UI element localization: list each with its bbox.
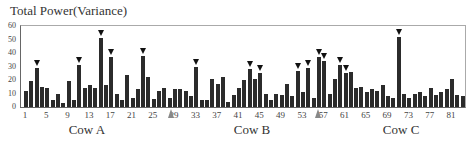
bar <box>338 65 342 107</box>
bar <box>205 100 209 107</box>
bar <box>67 81 71 107</box>
bar <box>397 37 401 107</box>
down-triangle-marker-icon <box>247 61 253 67</box>
bar <box>88 85 92 107</box>
y-tick-label: 30 <box>0 63 16 71</box>
bar <box>157 91 161 107</box>
bar <box>253 79 257 107</box>
bar <box>216 84 220 107</box>
bar <box>141 56 145 107</box>
bar <box>131 98 135 107</box>
y-tick-label: 50 <box>0 36 16 44</box>
bar <box>301 92 305 107</box>
y-tick-label: 60 <box>0 22 16 30</box>
down-triangle-marker-icon <box>257 65 263 71</box>
x-tick-label: 13 <box>84 110 93 120</box>
bar <box>136 89 140 107</box>
x-tick-label: 61 <box>340 110 349 120</box>
bar <box>344 73 348 107</box>
y-tick-label: 10 <box>0 90 16 98</box>
bar <box>242 80 246 107</box>
bar <box>365 92 369 107</box>
x-tick-label: 9 <box>65 110 70 120</box>
x-tick-label: 65 <box>361 110 370 120</box>
gray-up-triangle-marker-icon <box>168 109 174 118</box>
bar <box>349 72 353 107</box>
bar <box>370 89 374 107</box>
x-tick-label: 25 <box>148 110 157 120</box>
bar <box>109 57 113 107</box>
down-triangle-marker-icon <box>321 53 327 59</box>
x-tick-label: 33 <box>191 110 200 120</box>
bar <box>407 98 411 107</box>
bar <box>434 95 438 107</box>
down-triangle-marker-icon <box>108 49 114 55</box>
bar <box>439 92 443 107</box>
bar <box>24 91 28 107</box>
bar <box>77 65 81 107</box>
bar <box>61 103 65 107</box>
bar <box>125 75 129 107</box>
x-tick-label: 21 <box>127 110 136 120</box>
bar <box>232 95 236 107</box>
bar <box>194 67 198 108</box>
bar <box>354 88 358 107</box>
x-tick-label: 45 <box>255 110 264 120</box>
bar <box>306 68 310 107</box>
bar <box>184 91 188 107</box>
bar <box>280 95 284 107</box>
bar <box>93 88 97 107</box>
bar <box>248 69 252 107</box>
bar <box>258 73 262 107</box>
x-tick-label: 41 <box>234 110 243 120</box>
bar <box>200 100 204 107</box>
bar <box>312 98 316 107</box>
group-label: Cow B <box>234 122 270 138</box>
down-triangle-marker-icon <box>343 65 349 71</box>
x-tick-label: 1 <box>23 110 28 120</box>
bar <box>269 100 273 107</box>
bar <box>333 79 337 107</box>
x-tick-label: 81 <box>447 110 456 120</box>
bar <box>274 94 278 108</box>
bar <box>375 91 379 107</box>
bar <box>296 71 300 107</box>
bar <box>29 81 33 107</box>
bar <box>115 94 119 108</box>
bar <box>83 88 87 107</box>
x-tick-label: 17 <box>106 110 115 120</box>
down-triangle-marker-icon <box>98 30 104 36</box>
group-label: Cow C <box>383 122 419 138</box>
bar <box>429 88 433 107</box>
down-triangle-marker-icon <box>140 48 146 54</box>
bar <box>35 68 39 107</box>
bar <box>51 100 55 107</box>
bar <box>381 85 385 107</box>
gray-up-triangle-marker-icon <box>315 109 321 118</box>
bar <box>418 92 422 107</box>
bar <box>264 94 268 108</box>
chart-title: Total Power(Variance) <box>10 3 127 19</box>
bar <box>445 89 449 107</box>
x-tick-label: 5 <box>44 110 49 120</box>
bar <box>189 96 193 107</box>
down-triangle-marker-icon <box>193 59 199 65</box>
y-tick-label: 0 <box>0 103 16 111</box>
down-triangle-marker-icon <box>76 57 82 63</box>
bar <box>152 99 156 107</box>
x-tick-label: 73 <box>404 110 413 120</box>
bar <box>290 96 294 107</box>
bar <box>461 96 465 107</box>
bar <box>40 87 44 107</box>
x-tick-label: 49 <box>276 110 285 120</box>
bar <box>450 79 454 107</box>
down-triangle-marker-icon <box>337 57 343 63</box>
bar <box>237 88 241 107</box>
bar <box>359 87 363 107</box>
bar <box>285 84 289 107</box>
bar <box>99 38 103 107</box>
x-tick-label: 77 <box>425 110 434 120</box>
bar <box>221 77 225 107</box>
bar <box>146 77 150 107</box>
down-triangle-marker-icon <box>295 63 301 69</box>
